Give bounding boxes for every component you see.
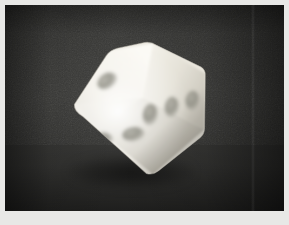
photo-plate (5, 5, 284, 211)
die-svg (63, 36, 215, 181)
photo-frame: Photograph of a white die six-sided die … (0, 0, 289, 225)
die (63, 36, 215, 181)
